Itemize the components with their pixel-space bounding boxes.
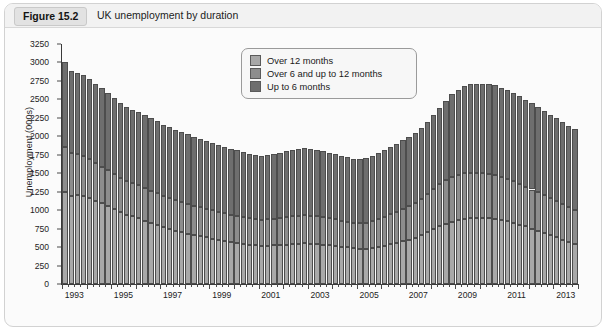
x-axis-tick-mark [234,284,235,289]
bar-segment [456,220,461,284]
bar-segment [105,170,110,205]
bar-segment [277,245,282,284]
bar-segment [161,227,166,284]
bar-column [148,44,153,284]
bar-column [474,44,479,284]
bar-segment [81,156,86,196]
bar-column [523,44,528,284]
x-axis-tick-mark [547,284,548,287]
bar-segment [345,247,350,284]
bar-segment [179,202,184,232]
bar-segment [320,151,325,217]
bar-column [99,44,104,284]
bar-segment [247,245,252,285]
bar-segment [357,223,362,248]
bar-segment [345,157,350,221]
bar-segment [554,201,559,237]
bar-segment [302,215,307,243]
bar-column [517,44,522,284]
bar-segment [406,206,411,239]
bar-segment [296,149,301,215]
x-axis-tick-mark [320,284,321,287]
bar-segment [425,232,430,284]
bar-column [566,44,571,284]
x-axis-tick-label: 2001 [261,290,280,300]
bar-segment [216,212,221,240]
bar-segment [339,156,344,221]
x-axis-tick-mark [338,284,339,287]
figure-number: Figure 15.2 [14,7,87,26]
bar-segment [284,245,289,285]
bar-segment [130,110,135,183]
bar-segment [437,226,442,284]
bar-segment [93,163,98,201]
bar-column [456,44,461,284]
bar-segment [302,243,307,284]
figure-card: Figure 15.2 UK unemployment by duration … [4,3,602,327]
x-axis-tick-mark [99,284,100,287]
x-axis-tick-mark [259,284,260,289]
x-axis-tick-mark [529,284,530,289]
y-axis-tick-label: 1500 [30,168,49,178]
bar-column [499,44,504,284]
bar-segment [234,243,239,284]
y-axis-tick-label: 2000 [30,131,49,141]
bar-segment [136,185,141,218]
x-axis-tick-label: 2011 [507,290,525,300]
bar-segment [320,217,325,244]
x-axis-tick-label: 1999 [212,290,231,300]
bar-segment [413,203,418,238]
x-axis-tick-mark [572,284,573,287]
bar-segment [443,224,448,284]
bar-segment [142,221,147,285]
bar-column [431,44,436,284]
bar-segment [535,231,540,284]
x-axis-tick-mark [369,284,370,287]
bar-segment [185,134,190,203]
x-axis-tick-mark [80,284,81,287]
x-axis-tick-mark [566,284,567,287]
x-axis-tick-mark [173,284,174,287]
bar-segment [566,126,571,208]
bar-segment [241,217,246,244]
bar-segment [327,153,332,218]
bar-segment [548,198,553,235]
bar-segment [333,219,338,246]
bar-segment [167,127,172,198]
bar-segment [413,133,418,203]
bar-segment [112,98,117,174]
bar-segment [320,245,325,285]
bar-column [161,44,166,284]
bar-segment [572,129,577,210]
x-axis-tick-mark [523,284,524,287]
x-axis-tick-label: 2009 [458,290,477,300]
bar-segment [449,222,454,284]
bar-column [198,44,203,284]
bar-segment [185,204,190,234]
bar-segment [81,75,86,155]
bar-segment [523,187,528,227]
x-axis-tick-mark [480,284,481,289]
bar-segment [517,96,522,184]
bar-segment [499,177,504,220]
bar-column [204,44,209,284]
bar-segment [228,242,233,284]
y-axis-ticks: 0250500750100012501500175020002250250027… [5,27,57,327]
bar-segment [480,173,485,218]
x-axis-tick-mark [431,284,432,289]
x-axis-tick-mark [578,284,579,289]
bar-segment [400,140,405,209]
bar-column [167,44,172,284]
bar-segment [554,237,559,284]
bar-segment [388,147,393,214]
x-axis-tick-mark [455,284,456,289]
x-axis-tick-mark [332,284,333,289]
x-axis-tick-label: 2005 [360,290,379,300]
bar-segment [234,216,239,243]
bar-segment [241,152,246,217]
bar-column [118,44,123,284]
bar-segment [308,244,313,284]
bar-segment [529,103,534,189]
x-axis-tick-mark [228,284,229,287]
bar-segment [62,62,67,147]
